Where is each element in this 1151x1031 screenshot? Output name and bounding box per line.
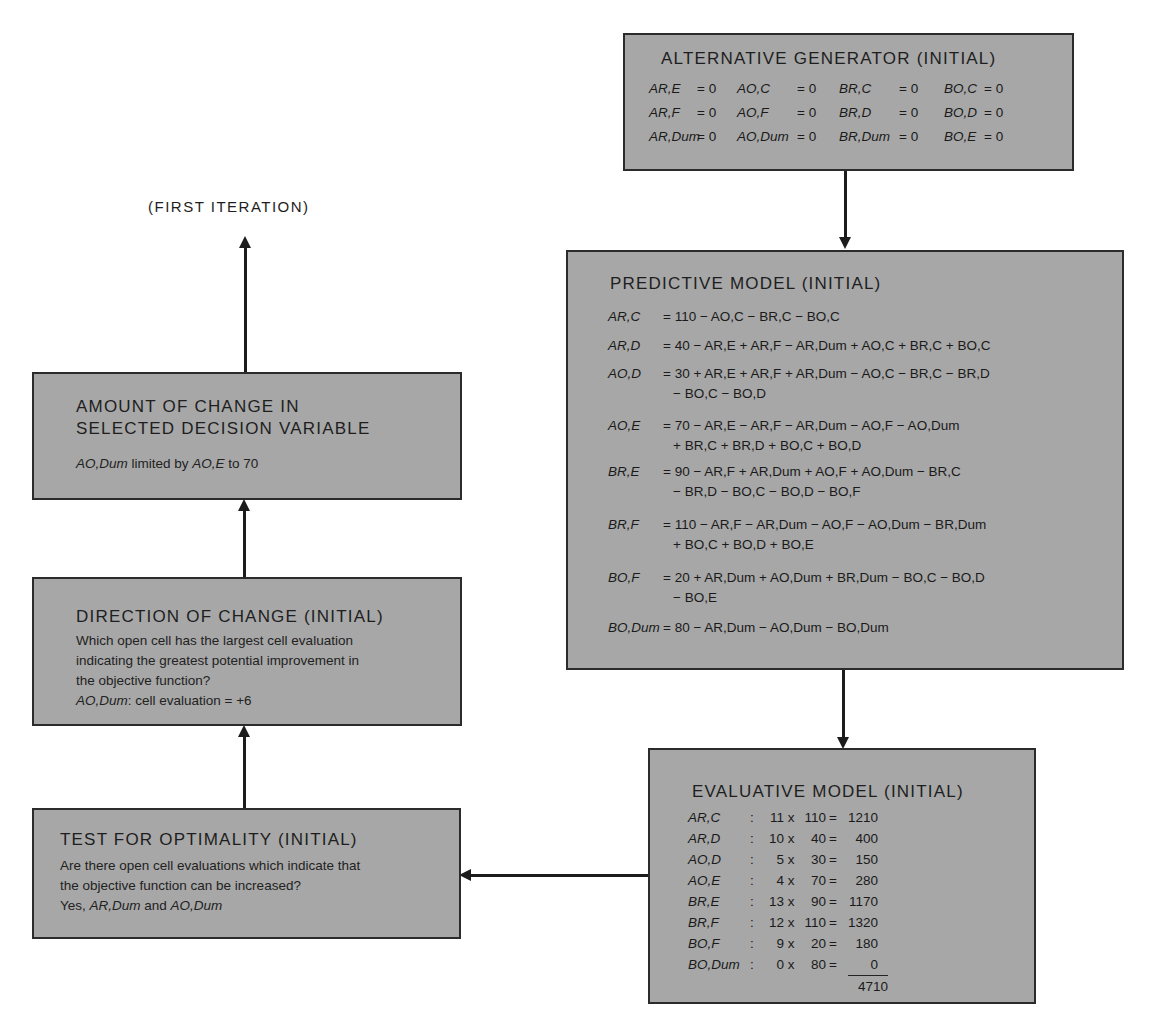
eval-colon: : (750, 828, 762, 849)
arrow-head-down-icon (839, 237, 851, 249)
direction-result: AO,Dum: cell evaluation = +6 (76, 691, 359, 711)
arrow-predictive-to-evaluative (842, 670, 845, 738)
amount-result-end: to 70 (225, 456, 259, 471)
eval-var: AO,D (688, 849, 750, 870)
amount-of-change-box: AMOUNT OF CHANGE IN SELECTED DECISION VA… (32, 372, 462, 500)
equation-row: AR,D = 40 − AR,E + AR,F − AR,Dum + AO,C … (608, 336, 1103, 356)
evaluation-row: BR,F : 12 x 110 = 1320 (688, 912, 878, 933)
equation-rhs-continued: − BO,C − BO,D (663, 384, 1103, 404)
eval-equals: = (826, 828, 840, 849)
eval-product: 400 (840, 828, 878, 849)
direction-result-var: AO,Dum (76, 693, 128, 708)
eval-colon: : (750, 912, 762, 933)
arrow-head-up-icon (238, 499, 250, 511)
ag-var: BR,C (839, 79, 899, 99)
eval-coef: 13 (762, 891, 784, 912)
eval-coef: 11 (762, 807, 784, 828)
arrow-amount-to-iteration (244, 247, 247, 372)
eval-colon: : (750, 891, 762, 912)
test-question-line1: Are there open cell evaluations which in… (60, 856, 360, 876)
equation-row: BR,F = 110 − AR,F − AR,Dum − AO,F − AO,D… (608, 515, 1103, 555)
eval-colon: : (750, 933, 762, 954)
equation-rhs: = 20 + AR,Dum + AO,Dum + BR,Dum − BO,C −… (663, 568, 1103, 588)
iteration-label: (FIRST ITERATION) (148, 198, 310, 215)
eval-equals: = (826, 912, 840, 933)
amount-title-line1: AMOUNT OF CHANGE IN (76, 396, 370, 418)
evaluation-row: BO,Dum : 0 x 80 = 0 (688, 954, 878, 975)
amount-of-change-title: AMOUNT OF CHANGE IN SELECTED DECISION VA… (76, 396, 370, 440)
ag-var: BO,D (944, 103, 984, 123)
direction-of-change-title: DIRECTION OF CHANGE (INITIAL) (76, 607, 384, 627)
ag-val: = 0 (899, 103, 944, 123)
evaluation-row: AO,D : 5 x 30 = 150 (688, 849, 878, 870)
eval-colon: : (750, 849, 762, 870)
eval-coef: 10 (762, 828, 784, 849)
direction-question-line1: Which open cell has the largest cell eva… (76, 631, 359, 651)
ag-val: = 0 (984, 127, 1024, 147)
equation-lhs: BO,Dum (608, 618, 663, 638)
evaluation-row: BR,E : 13 x 90 = 1170 (688, 891, 878, 912)
equation-rhs: = 30 + AR,E + AR,F + AR,Dum − AO,C − BR,… (663, 364, 1103, 384)
eval-times: x (784, 954, 798, 975)
ag-val: = 0 (899, 127, 944, 147)
evaluative-model-title: EVALUATIVE MODEL (INITIAL) (692, 782, 964, 802)
ag-var: AR,E (649, 79, 697, 99)
eval-qty: 90 (798, 891, 826, 912)
equation-rhs-continued: + BO,C + BO,D + BO,E (663, 535, 1103, 555)
arrow-evaluative-to-test (470, 874, 648, 877)
eval-times: x (784, 828, 798, 849)
ag-var: AO,F (737, 103, 797, 123)
ag-val: = 0 (797, 103, 839, 123)
test-answer: Yes, AR,Dum and AO,Dum (60, 896, 360, 916)
eval-times: x (784, 870, 798, 891)
equation-rhs: = 90 − AR,F + AR,Dum + AO,F + AO,Dum − B… (663, 462, 1103, 482)
eval-product: 180 (840, 933, 878, 954)
arrow-test-to-direction (243, 736, 246, 808)
eval-product: 280 (840, 870, 878, 891)
evaluation-row: AO,E : 4 x 70 = 280 (688, 870, 878, 891)
test-question-line2: the objective function can be increased? (60, 876, 360, 896)
ag-val: = 0 (984, 79, 1024, 99)
amount-result: AO,Dum limited by AO,E to 70 (76, 454, 258, 474)
ag-var: BO,C (944, 79, 984, 99)
test-for-optimality-title: TEST FOR OPTIMALITY (INITIAL) (60, 830, 358, 850)
arrow-head-up-icon (238, 725, 250, 737)
eval-product: 1210 (840, 807, 878, 828)
alternative-generator-values: AR,E = 0 AO,C = 0 BR,C = 0 BO,C = 0 AR,F… (649, 79, 1024, 147)
eval-product: 1320 (840, 912, 878, 933)
ag-val: = 0 (697, 79, 737, 99)
equation-lhs: AR,C (608, 307, 663, 327)
eval-equals: = (826, 954, 840, 975)
ag-val: = 0 (797, 127, 839, 147)
direction-question-line2: indicating the greatest potential improv… (76, 651, 359, 671)
eval-colon: : (750, 870, 762, 891)
equation-lhs: AO,E (608, 416, 663, 456)
test-answer-var2: AO,Dum (171, 898, 223, 913)
arrow-head-up-icon (239, 236, 251, 248)
eval-times: x (784, 912, 798, 933)
eval-product: 0 (840, 954, 878, 975)
eval-var: BR,F (688, 912, 750, 933)
eval-qty: 20 (798, 933, 826, 954)
eval-var: BO,Dum (688, 954, 750, 975)
test-answer-var1: AR,Dum (90, 898, 141, 913)
ag-val: = 0 (697, 127, 737, 147)
ag-val: = 0 (984, 103, 1024, 123)
ag-var: AR,F (649, 103, 697, 123)
eval-coef: 9 (762, 933, 784, 954)
eval-qty: 80 (798, 954, 826, 975)
eval-qty: 30 (798, 849, 826, 870)
eval-times: x (784, 849, 798, 870)
equation-rhs-continued: − BO,E (663, 588, 1103, 608)
direction-of-change-body: Which open cell has the largest cell eva… (76, 631, 359, 711)
direction-question-line3: the objective function? (76, 671, 359, 691)
eval-qty: 110 (798, 912, 826, 933)
ag-var: BR,Dum (839, 127, 899, 147)
predictive-model-box: PREDICTIVE MODEL (INITIAL) AR,C = 110 − … (566, 250, 1124, 670)
eval-times: x (784, 891, 798, 912)
test-for-optimality-box: TEST FOR OPTIMALITY (INITIAL) Are there … (32, 808, 461, 939)
equation-lhs: BR,F (608, 515, 663, 555)
ag-val: = 0 (797, 79, 839, 99)
equation-row: AR,C = 110 − AO,C − BR,C − BO,C (608, 307, 1103, 327)
equation-rhs: = 80 − AR,Dum − AO,Dum − BO,Dum (663, 618, 1103, 638)
